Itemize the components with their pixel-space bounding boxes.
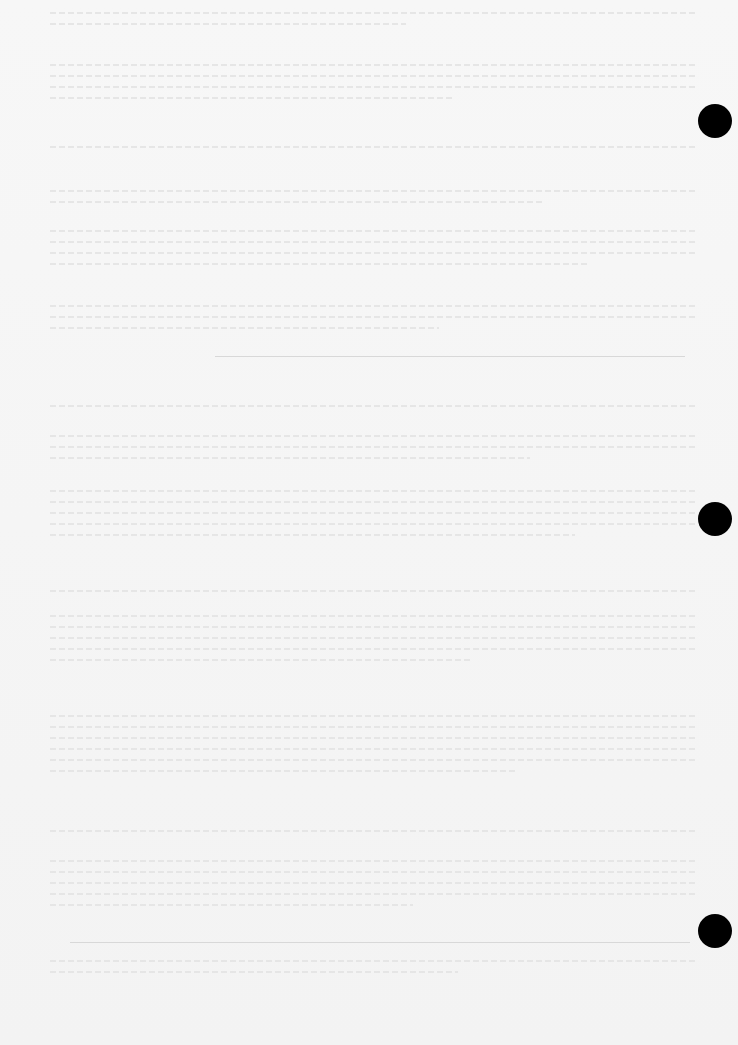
text-line — [50, 960, 698, 962]
text-line — [50, 501, 698, 503]
text-line — [50, 871, 698, 873]
text-line — [50, 263, 588, 265]
text-line — [50, 882, 698, 884]
punch-hole-bottom — [698, 914, 732, 948]
text-line — [50, 86, 698, 88]
text-line — [50, 534, 575, 536]
text-line — [50, 252, 698, 254]
text-line — [50, 648, 698, 650]
text-line — [50, 715, 698, 717]
paragraph-block — [50, 12, 698, 34]
text-line — [50, 12, 698, 14]
paragraph-block — [50, 960, 698, 982]
text-line — [50, 893, 698, 895]
text-line — [50, 190, 698, 192]
punch-hole-top — [698, 104, 732, 138]
paragraph-block — [50, 615, 698, 670]
text-line — [50, 830, 698, 832]
text-line — [50, 316, 698, 318]
paragraph-block — [50, 146, 698, 157]
horizontal-rule-upper — [215, 356, 685, 357]
text-line — [50, 904, 413, 906]
text-line — [50, 770, 517, 772]
text-line — [50, 75, 698, 77]
text-line — [50, 590, 698, 592]
text-line — [50, 146, 698, 148]
paragraph-block — [50, 490, 698, 545]
text-line — [50, 305, 698, 307]
text-line — [50, 726, 698, 728]
text-line — [50, 241, 698, 243]
text-line — [50, 435, 698, 437]
text-line — [50, 615, 698, 617]
text-line — [50, 97, 452, 99]
text-line — [50, 737, 698, 739]
paragraph-block — [50, 435, 698, 468]
text-line — [50, 659, 471, 661]
paragraph-block — [50, 230, 698, 274]
paragraph-block — [50, 64, 698, 108]
text-line — [50, 626, 698, 628]
paragraph-block — [50, 830, 698, 841]
text-line — [50, 327, 439, 329]
text-line — [50, 490, 698, 492]
paragraph-block — [50, 860, 698, 915]
paragraph-block — [50, 405, 698, 416]
text-line — [50, 637, 698, 639]
text-line — [50, 759, 698, 761]
text-line — [50, 201, 542, 203]
horizontal-rule-lower — [70, 942, 690, 943]
text-line — [50, 405, 698, 407]
text-line — [50, 971, 458, 973]
text-line — [50, 523, 698, 525]
text-line — [50, 64, 698, 66]
paragraph-block — [50, 715, 698, 781]
document-page — [0, 0, 738, 1045]
text-line — [50, 748, 698, 750]
paragraph-block — [50, 190, 698, 212]
text-line — [50, 512, 698, 514]
text-line — [50, 457, 530, 459]
punch-hole-middle — [698, 502, 732, 536]
paragraph-block — [50, 305, 698, 338]
paragraph-block — [50, 590, 698, 601]
text-line — [50, 446, 698, 448]
text-line — [50, 230, 698, 232]
text-line — [50, 23, 406, 25]
text-line — [50, 860, 698, 862]
